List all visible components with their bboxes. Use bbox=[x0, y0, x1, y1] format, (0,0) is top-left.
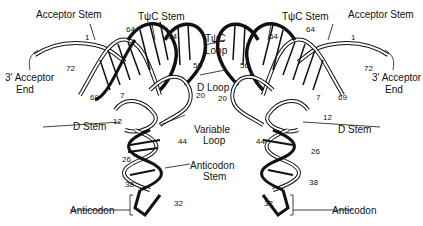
label-d-stem-right: D Stem bbox=[338, 124, 371, 135]
num-1-left: 1 bbox=[85, 33, 89, 42]
label-variable-loop-2: Loop bbox=[203, 135, 225, 146]
num-56-right: 56 bbox=[240, 61, 249, 70]
num-69-left: 69 bbox=[90, 93, 99, 102]
label-tpsic-stem-right: TψC Stem bbox=[282, 11, 329, 22]
label-anticodon-stem-1: Anticodon bbox=[190, 160, 234, 171]
label-tpsic-loop-2: Loop bbox=[205, 45, 227, 56]
num-64-right: 64 bbox=[306, 25, 315, 34]
num-1-right: 1 bbox=[351, 33, 355, 42]
num-56-left: 56 bbox=[193, 61, 202, 70]
num-7-left: 7 bbox=[120, 91, 124, 100]
num-69-right: 69 bbox=[338, 93, 347, 102]
num-12-right: 12 bbox=[323, 113, 332, 122]
num-20-left: 20 bbox=[196, 91, 205, 100]
num-44-left: 44 bbox=[178, 137, 187, 146]
num-20-right: 20 bbox=[218, 94, 227, 103]
num-64-left: 64 bbox=[126, 25, 135, 34]
label-acceptor-stem-right: Acceptor Stem bbox=[348, 9, 414, 20]
num-72-right: 72 bbox=[364, 64, 373, 73]
num-32-right: 32 bbox=[264, 199, 273, 208]
num-54-left: 54 bbox=[168, 32, 177, 41]
num-7-right: 7 bbox=[316, 93, 320, 102]
num-12-left: 12 bbox=[113, 117, 122, 126]
label-acceptor-stem-left: Acceptor Stem bbox=[36, 9, 102, 20]
label-acceptor-end-right-1: 3' Acceptor bbox=[372, 72, 421, 83]
label-acceptor-end-left-2: End bbox=[16, 84, 34, 95]
num-38-left: 38 bbox=[125, 180, 134, 189]
label-acceptor-end-right-2: End bbox=[385, 84, 403, 95]
num-38-right: 38 bbox=[309, 178, 318, 187]
label-anticodon-stem-2: Stem bbox=[203, 171, 226, 182]
label-anticodon-right: Anticodon bbox=[332, 205, 376, 216]
label-d-stem-left: D Stem bbox=[73, 121, 106, 132]
label-tpsic-stem-left: TψC Stem bbox=[138, 11, 185, 22]
label-tpsic-loop-1: TψC bbox=[205, 33, 225, 44]
num-54-right: 54 bbox=[269, 32, 278, 41]
num-32-left: 32 bbox=[174, 199, 183, 208]
num-44-right: 44 bbox=[256, 137, 265, 146]
num-72-left: 72 bbox=[66, 64, 75, 73]
label-variable-loop-1: Variable bbox=[194, 124, 230, 135]
num-26-right: 26 bbox=[311, 147, 320, 156]
label-anticodon-left: Anticodon bbox=[70, 205, 114, 216]
right-trna bbox=[218, 24, 394, 215]
label-acceptor-end-left-1: 3' Acceptor bbox=[5, 72, 54, 83]
num-26-left: 26 bbox=[122, 155, 131, 164]
